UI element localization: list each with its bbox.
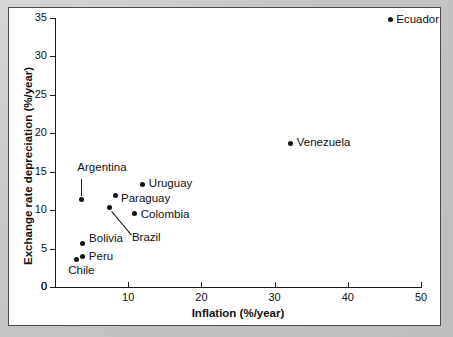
x-tick-label: 30 bbox=[260, 291, 290, 303]
point-label-chile: Chile bbox=[68, 264, 94, 276]
point-label-bolivia: Bolivia bbox=[89, 232, 123, 244]
x-axis-title: Inflation (%/year) bbox=[183, 307, 293, 319]
y-tick bbox=[50, 249, 55, 250]
x-axis-line bbox=[55, 287, 422, 288]
point-label-colombia: Colombia bbox=[141, 208, 190, 220]
x-tick bbox=[201, 282, 202, 287]
y-tick-label: 35 bbox=[23, 11, 47, 23]
x-tick-label: 40 bbox=[333, 291, 363, 303]
point-label-ecuador: Ecuador bbox=[396, 13, 439, 25]
x-tick-label: 10 bbox=[113, 291, 143, 303]
point-label-argentina: Argentina bbox=[77, 161, 126, 173]
data-point[interactable] bbox=[79, 197, 84, 202]
y-axis-line bbox=[55, 18, 56, 288]
y-tick bbox=[50, 56, 55, 57]
leader-line-argentina bbox=[81, 179, 82, 196]
point-label-paraguay: Paraguay bbox=[121, 192, 170, 204]
y-tick-label: 30 bbox=[23, 49, 47, 61]
y-tick bbox=[50, 18, 55, 19]
data-point[interactable] bbox=[80, 254, 85, 259]
point-label-venezuela: Venezuela bbox=[297, 136, 351, 148]
x-tick bbox=[128, 282, 129, 287]
scatter-plot: 0510152025303501020304050EcuadorVenezuel… bbox=[0, 0, 453, 337]
data-point[interactable] bbox=[74, 257, 79, 262]
data-point[interactable] bbox=[113, 193, 118, 198]
y-tick bbox=[50, 287, 55, 288]
x-tick bbox=[348, 282, 349, 287]
y-tick bbox=[50, 210, 55, 211]
data-point[interactable] bbox=[80, 241, 85, 246]
chart-screenshot: 0510152025303501020304050EcuadorVenezuel… bbox=[0, 0, 453, 337]
x-tick bbox=[421, 282, 422, 287]
point-label-uruguay: Uruguay bbox=[149, 177, 192, 189]
x-tick-label: 50 bbox=[406, 291, 436, 303]
data-point[interactable] bbox=[140, 182, 145, 187]
data-point[interactable] bbox=[288, 141, 293, 146]
x-tick-label: 20 bbox=[186, 291, 216, 303]
x-tick bbox=[275, 282, 276, 287]
data-point[interactable] bbox=[388, 17, 393, 22]
point-label-peru: Peru bbox=[89, 250, 113, 262]
y-tick bbox=[50, 95, 55, 96]
y-tick bbox=[50, 133, 55, 134]
point-label-brazil: Brazil bbox=[132, 231, 161, 243]
y-tick bbox=[50, 172, 55, 173]
data-point[interactable] bbox=[132, 211, 137, 216]
x-tick-label: 0 bbox=[23, 280, 47, 292]
y-axis-title: Exchange rate depreciation (%/year) bbox=[22, 67, 34, 265]
